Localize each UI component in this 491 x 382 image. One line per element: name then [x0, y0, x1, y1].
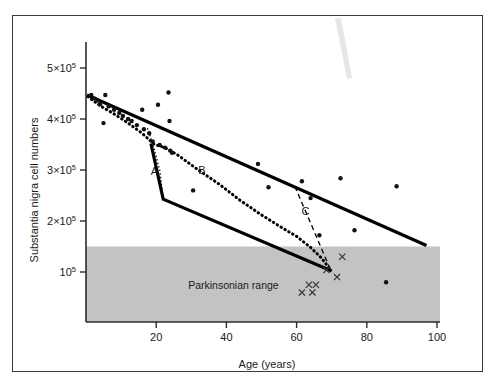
scatter-dot	[338, 176, 342, 180]
y-tick-label: 3×105	[47, 163, 76, 176]
y-tick-label: 4×105	[47, 112, 76, 125]
scatter-dot	[101, 121, 105, 125]
scatter-dot	[191, 188, 195, 192]
figure-root: 5×1054×1053×1052×10510520406080100 ABC A…	[0, 0, 491, 382]
x-axis-title: Age (years)	[239, 358, 296, 370]
scatter-dot	[308, 196, 312, 200]
scatter-dot	[89, 93, 93, 97]
curve-label-C: C	[301, 205, 309, 217]
curve-curve-B-dotted	[88, 97, 330, 269]
y-axis-title: Substantia nigra cell numbers	[28, 117, 40, 262]
scatter-dot	[135, 123, 139, 127]
scan-smudge	[335, 18, 352, 79]
x-tick-label: 20	[150, 331, 162, 343]
scatter-dot	[98, 102, 102, 106]
scatter-dot	[170, 151, 174, 155]
x-tick-label: 60	[290, 331, 302, 343]
x-tick-label: 40	[220, 331, 232, 343]
scatter-dot	[112, 108, 116, 112]
curve-annotations: ABC	[151, 164, 310, 217]
scatter-dot	[158, 143, 162, 147]
scatter-dot	[384, 280, 388, 284]
scatter-dot	[394, 184, 398, 188]
x-tick-label: 100	[428, 331, 446, 343]
scatter-dot	[140, 108, 144, 112]
scatter-dot	[300, 179, 304, 183]
scatter-dot	[142, 127, 146, 131]
scatter-dot	[352, 228, 356, 232]
scatter-dot	[256, 162, 260, 166]
scatter-dot	[147, 131, 151, 135]
curve-label-B: B	[198, 164, 205, 176]
scatter-dot	[166, 90, 170, 94]
scatter-dot	[107, 104, 111, 108]
x-tick-label: 80	[361, 331, 373, 343]
scatter-dot	[156, 103, 160, 107]
parkinsonian-range-label: Parkinsonian range	[188, 279, 279, 291]
curve-upper-envelope	[87, 95, 426, 246]
scatter-dot	[121, 114, 125, 118]
scatter-dot	[117, 111, 121, 115]
curve-label-A: A	[151, 165, 159, 177]
trend-curves	[87, 95, 426, 271]
y-tick-label: 105	[60, 265, 76, 278]
scatter-dot	[103, 93, 107, 97]
scatter-dot	[163, 145, 167, 149]
scatter-dot	[317, 233, 321, 237]
chart-canvas: 5×1054×1053×1052×10510520406080100 ABC A…	[0, 0, 491, 382]
scatter-dot	[167, 119, 171, 123]
scatter-dot	[151, 139, 155, 143]
y-tick-label: 5×105	[47, 61, 76, 74]
scatter-dot	[266, 185, 270, 189]
scatter-dot	[129, 119, 133, 123]
y-tick-label: 2×105	[47, 214, 76, 227]
